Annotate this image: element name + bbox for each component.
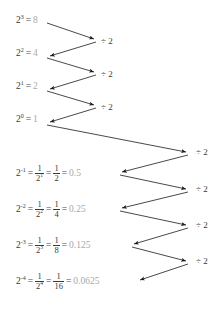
equals-sign: = bbox=[26, 168, 35, 178]
equals-sign: = bbox=[44, 204, 53, 214]
result-value-0-5: 0.5 bbox=[69, 168, 81, 178]
arrow-quarter-to-divide-6 bbox=[120, 211, 186, 225]
power-term-2-pow-neg1: 2-1 bbox=[16, 168, 26, 178]
fraction-one-over-two-pow-4: 1 24 bbox=[35, 272, 44, 292]
result-value-0-125: 0.125 bbox=[69, 240, 90, 250]
arrow-divide-1-to-4 bbox=[50, 42, 96, 56]
arrow-divide-2-to-2 bbox=[50, 75, 96, 89]
equals-sign: = bbox=[26, 240, 35, 250]
equals-sign: = bbox=[24, 48, 33, 58]
equals-sign: = bbox=[44, 168, 53, 178]
expression-row-2-pow-2: 22=4 bbox=[16, 49, 38, 59]
power-term-2-pow-neg3: 2-3 bbox=[16, 240, 26, 250]
expression-row-2-pow-neg2: 2-2= 1 22 = 1 4 =0.25 bbox=[16, 200, 86, 220]
divide-by-two-label-7: ÷ 2 bbox=[196, 257, 208, 266]
fraction-one-over-eight: 1 8 bbox=[53, 236, 59, 256]
arrow-1-to-divide-4 bbox=[47, 125, 186, 152]
result-value-4: 4 bbox=[33, 48, 38, 58]
equals-sign: = bbox=[44, 276, 53, 286]
arrow-eighth-to-divide-7 bbox=[132, 247, 186, 261]
arrow-8-to-divide-1 bbox=[47, 23, 94, 39]
fraction-one-over-four: 1 4 bbox=[53, 200, 59, 220]
arrow-divide-7-to-sixteenth bbox=[140, 264, 188, 280]
expression-row-2-pow-0: 20=1 bbox=[16, 115, 38, 125]
equals-sign: = bbox=[26, 276, 35, 286]
expression-row-2-pow-neg1: 2-1= 1 21 = 1 2 =0.5 bbox=[16, 164, 81, 184]
fraction-one-over-sixteen: 1 16 bbox=[53, 272, 64, 292]
arrow-layer bbox=[0, 0, 222, 311]
expression-row-2-pow-3: 23=8 bbox=[16, 16, 38, 26]
expression-row-2-pow-neg4: 2-4= 1 24 = 1 16 =0.0625 bbox=[16, 272, 99, 292]
power-term-2-pow-2: 22 bbox=[16, 48, 24, 58]
expression-row-2-pow-neg3: 2-3= 1 23 = 1 8 =0.125 bbox=[16, 236, 90, 256]
result-value-2: 2 bbox=[33, 81, 38, 91]
equals-sign: = bbox=[24, 81, 33, 91]
arrow-2-to-divide-3 bbox=[47, 91, 94, 105]
result-value-1: 1 bbox=[33, 114, 38, 124]
arrow-divide-4-to-half bbox=[122, 155, 188, 172]
result-value-8: 8 bbox=[33, 15, 38, 25]
power-term-2-pow-3: 23 bbox=[16, 15, 24, 25]
fraction-one-over-two-pow-1: 1 21 bbox=[35, 164, 44, 184]
divide-by-two-label-4: ÷ 2 bbox=[196, 148, 208, 157]
divide-by-two-label-3: ÷ 2 bbox=[101, 103, 113, 112]
power-term-2-pow-neg4: 2-4 bbox=[16, 276, 26, 286]
divide-by-two-label-5: ÷ 2 bbox=[196, 185, 208, 194]
equals-sign: = bbox=[26, 204, 35, 214]
result-value-0-25: 0.25 bbox=[69, 204, 86, 214]
expression-row-2-pow-1: 21=2 bbox=[16, 82, 38, 92]
arrow-divide-5-to-quarter bbox=[122, 192, 188, 208]
equals-sign: = bbox=[60, 168, 69, 178]
power-term-2-pow-1: 21 bbox=[16, 81, 24, 91]
divide-by-two-label-6: ÷ 2 bbox=[196, 221, 208, 230]
equals-sign: = bbox=[44, 240, 53, 250]
arrow-divide-3-to-1 bbox=[50, 108, 96, 122]
fraction-one-over-two-pow-2: 1 22 bbox=[35, 200, 44, 220]
equals-sign: = bbox=[24, 15, 33, 25]
arrow-divide-6-to-eighth bbox=[134, 228, 188, 244]
arrow-half-to-divide-5 bbox=[120, 175, 186, 189]
equals-sign: = bbox=[60, 240, 69, 250]
equals-sign: = bbox=[64, 276, 73, 286]
fraction-one-over-two: 1 2 bbox=[53, 164, 59, 184]
power-term-2-pow-0: 20 bbox=[16, 114, 24, 124]
powers-of-two-diagram: 23=8 22=4 21=2 20=1 2-1= 1 21 = 1 2 =0.5… bbox=[0, 0, 222, 311]
fraction-denominator: 24 bbox=[35, 282, 44, 291]
fraction-denominator: 22 bbox=[35, 210, 44, 219]
power-term-2-pow-neg2: 2-2 bbox=[16, 204, 26, 214]
fraction-denominator: 21 bbox=[35, 174, 44, 183]
fraction-denominator: 23 bbox=[35, 246, 44, 255]
divide-by-two-label-1: ÷ 2 bbox=[101, 37, 113, 46]
result-value-0-0625: 0.0625 bbox=[73, 276, 99, 286]
fraction-one-over-two-pow-3: 1 23 bbox=[35, 236, 44, 256]
arrow-4-to-divide-2 bbox=[47, 58, 94, 72]
equals-sign: = bbox=[60, 204, 69, 214]
equals-sign: = bbox=[24, 114, 33, 124]
divide-by-two-label-2: ÷ 2 bbox=[101, 70, 113, 79]
